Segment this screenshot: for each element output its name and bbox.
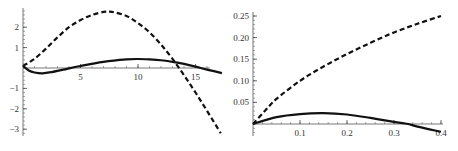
- x-tick-label: 15: [191, 72, 201, 82]
- y-tick-label: 0.05: [233, 97, 249, 107]
- x-tick-label: 10: [134, 72, 144, 82]
- dashed-series-line: [253, 16, 441, 124]
- y-tick-label: −3: [9, 124, 19, 134]
- y-tick-label: −1: [9, 83, 19, 93]
- x-tick-label: 0.1: [294, 128, 305, 138]
- y-tick-label: 1: [15, 43, 20, 53]
- y-tick-label: 0.20: [233, 33, 249, 43]
- y-tick-label: 0.25: [233, 11, 249, 21]
- x-tick-label: 0.4: [435, 128, 447, 138]
- y-tick-label: 0.10: [233, 76, 249, 86]
- x-tick-label: 5: [78, 72, 83, 82]
- x-tick-label: 0.2: [341, 128, 352, 138]
- y-tick-label: −2: [9, 104, 19, 114]
- right-chart: 0.250.200.150.100.050.10.20.30.4: [233, 11, 447, 138]
- y-tick-label: 2: [15, 22, 20, 32]
- x-tick-label: 0.3: [388, 128, 400, 138]
- left-chart: 21−1−2−351015: [9, 8, 222, 136]
- figure: 21−1−2−351015 0.250.200.150.100.050.10.2…: [0, 0, 458, 151]
- y-tick-label: 0.15: [233, 54, 249, 64]
